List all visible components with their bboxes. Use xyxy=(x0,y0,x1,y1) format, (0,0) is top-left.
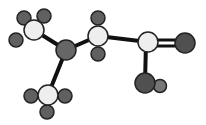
hydrogen-atom xyxy=(91,47,105,61)
hydrogen-atom xyxy=(9,33,23,47)
nitrogen-atom xyxy=(56,40,76,60)
hydrogen-atom xyxy=(58,89,72,103)
hydrogen-atom xyxy=(91,11,105,25)
hydrogen-atom xyxy=(24,89,38,103)
oxygen-atom-hydroxyl xyxy=(135,73,155,93)
carbon-atom-methyl-left xyxy=(24,20,44,40)
carbon-atom-alpha xyxy=(88,26,108,46)
oxygen-atom-double xyxy=(175,33,195,53)
molecule-diagram xyxy=(0,0,206,125)
carbon-atom-carboxyl xyxy=(138,32,158,52)
hydrogen-atom xyxy=(40,105,54,119)
carbon-atom-methyl-bottom xyxy=(38,85,58,105)
